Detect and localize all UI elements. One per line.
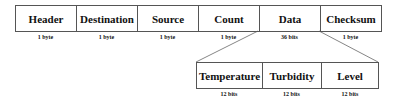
field-count: Count	[199, 6, 260, 31]
field-data: Data	[260, 6, 321, 31]
field-source: Source	[138, 6, 199, 31]
field-destination: Destination	[77, 6, 138, 31]
packet-structure: Header Destination Source Count Data Che…	[15, 5, 382, 32]
size-temperature: 12 bits	[196, 91, 262, 97]
size-level: 12 bits	[321, 91, 379, 97]
data-breakdown: Temperature Turbidity Level	[196, 62, 379, 89]
size-turbidity: 12 bits	[262, 91, 321, 97]
size-source: 1 byte	[137, 34, 198, 40]
field-turbidity: Turbidity	[263, 63, 322, 88]
field-temperature: Temperature	[197, 63, 263, 88]
size-count: 1 byte	[198, 34, 259, 40]
size-destination: 1 byte	[76, 34, 137, 40]
field-header: Header	[16, 6, 77, 31]
size-header: 1 byte	[15, 34, 76, 40]
size-checksum: 1 byte	[320, 34, 381, 40]
field-level: Level	[322, 63, 378, 88]
field-checksum: Checksum	[321, 6, 381, 31]
size-data: 36 bits	[259, 34, 320, 40]
